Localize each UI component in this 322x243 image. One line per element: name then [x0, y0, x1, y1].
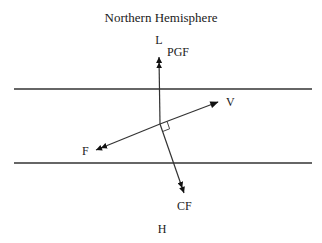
friction-arrow [96, 124, 160, 150]
coriolis-arrow [160, 124, 184, 193]
pgf-arrow [159, 57, 160, 124]
high-pressure-label: H [158, 222, 167, 236]
coriolis-label: CF [177, 199, 192, 213]
force-balance-diagram: Northern Hemisphere L PGF V F CF H [0, 0, 322, 243]
pgf-label: PGF [167, 45, 189, 59]
diagram-title: Northern Hemisphere [105, 10, 218, 25]
velocity-arrow [160, 102, 218, 124]
velocity-label: V [226, 95, 235, 109]
friction-label: F [82, 144, 89, 158]
low-pressure-label: L [155, 33, 162, 47]
diagram-canvas: Northern Hemisphere L PGF V F CF H [0, 0, 322, 243]
